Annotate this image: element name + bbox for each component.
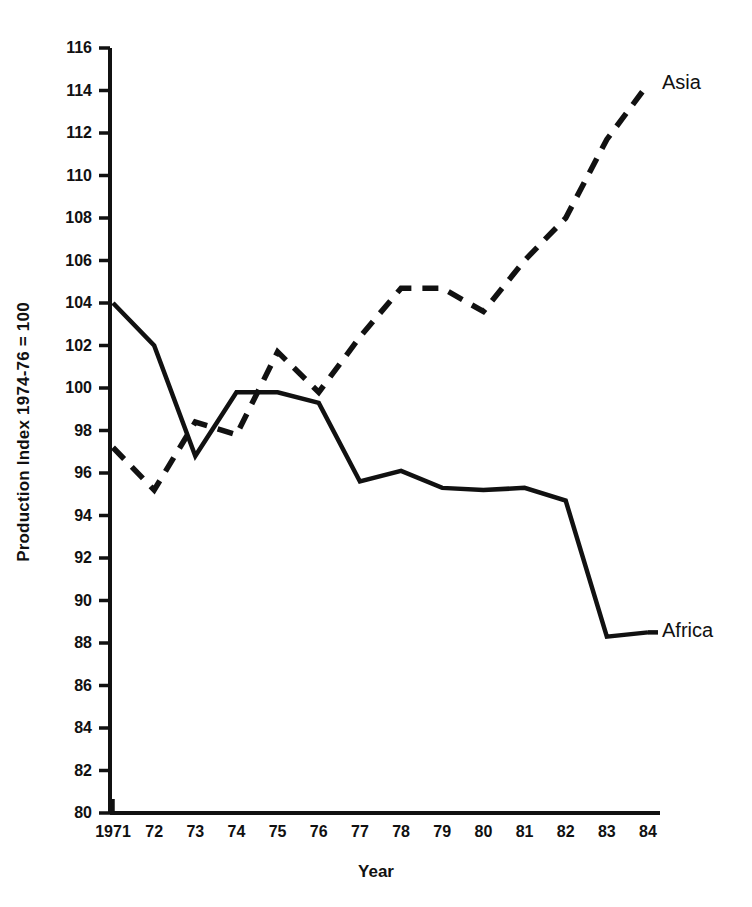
- y-tick-label: 114: [46, 83, 92, 99]
- y-tick-label: 98: [46, 423, 92, 439]
- y-tick-label: 112: [46, 125, 92, 141]
- y-tick-label: 108: [46, 210, 92, 226]
- x-tick-label: 78: [392, 824, 410, 840]
- y-tick-label: 88: [46, 635, 92, 651]
- series-label-asia: Asia: [662, 71, 701, 94]
- x-tick-label: 80: [474, 824, 492, 840]
- y-tick-label: 82: [46, 763, 92, 779]
- y-tick-label: 86: [46, 678, 92, 694]
- series-line-africa: [113, 303, 648, 637]
- axes: [110, 48, 660, 813]
- y-tick-label: 94: [46, 508, 92, 524]
- x-tick-label: 77: [351, 824, 369, 840]
- y-tick-label: 84: [46, 720, 92, 736]
- y-tick-label: 92: [46, 550, 92, 566]
- x-tick-label: 79: [433, 824, 451, 840]
- x-tick-label: 73: [186, 824, 204, 840]
- x-tick-label: 84: [639, 824, 657, 840]
- x-tick-label: 81: [516, 824, 534, 840]
- x-tick-label: 72: [145, 824, 163, 840]
- y-tick-label: 110: [46, 168, 92, 184]
- x-tick-label: 74: [228, 824, 246, 840]
- x-tick-label: 1971: [95, 824, 131, 840]
- x-tick-label: 75: [269, 824, 287, 840]
- y-tick-label: 106: [46, 253, 92, 269]
- y-tick-label: 104: [46, 295, 92, 311]
- y-tick-label: 100: [46, 380, 92, 396]
- y-tick-label: 80: [46, 805, 92, 821]
- data-series-group: [113, 84, 648, 637]
- y-tick-label: 116: [46, 40, 92, 56]
- x-tick-label: 76: [310, 824, 328, 840]
- y-tick-label: 102: [46, 338, 92, 354]
- line-chart: Production Index 1974-76 = 100 Year 8082…: [0, 0, 752, 907]
- series-line-asia: [113, 84, 648, 490]
- plot-area: [0, 0, 752, 907]
- y-tick-label: 96: [46, 465, 92, 481]
- x-tick-label: 83: [598, 824, 616, 840]
- y-tick-label: 90: [46, 593, 92, 609]
- series-label-africa: Africa: [662, 619, 713, 642]
- x-tick-label: 82: [557, 824, 575, 840]
